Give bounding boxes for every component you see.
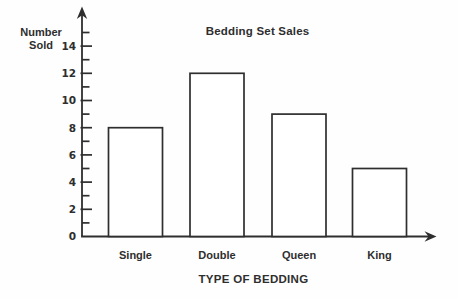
x-category-label-double: Double bbox=[198, 249, 235, 261]
y-axis-title-line2: Sold bbox=[12, 39, 70, 52]
y-tick-label-10: 10 bbox=[61, 94, 76, 106]
y-tick-label-2: 2 bbox=[69, 203, 76, 215]
x-category-label-single: Single bbox=[119, 249, 152, 261]
chart-title: Bedding Set Sales bbox=[200, 25, 315, 37]
bar-queen bbox=[272, 114, 326, 236]
y-axis-title-line1: Number bbox=[12, 26, 70, 39]
y-tick-label-4: 4 bbox=[69, 176, 76, 188]
x-category-label-queen: Queen bbox=[282, 249, 317, 261]
bar-double bbox=[190, 73, 244, 236]
bar-single bbox=[109, 128, 163, 237]
bar-chart-figure: 02468101214SingleDoubleQueenKing Bedding… bbox=[0, 0, 458, 299]
x-category-label-king: King bbox=[367, 249, 391, 261]
y-tick-label-6: 6 bbox=[69, 149, 76, 161]
bar-king bbox=[353, 169, 407, 237]
y-tick-label-12: 12 bbox=[61, 67, 76, 79]
y-axis-title: Number Sold bbox=[12, 26, 70, 52]
y-tick-label-0: 0 bbox=[69, 230, 76, 242]
y-tick-label-8: 8 bbox=[69, 122, 76, 134]
x-axis-title: TYPE OF BEDDING bbox=[196, 273, 311, 285]
